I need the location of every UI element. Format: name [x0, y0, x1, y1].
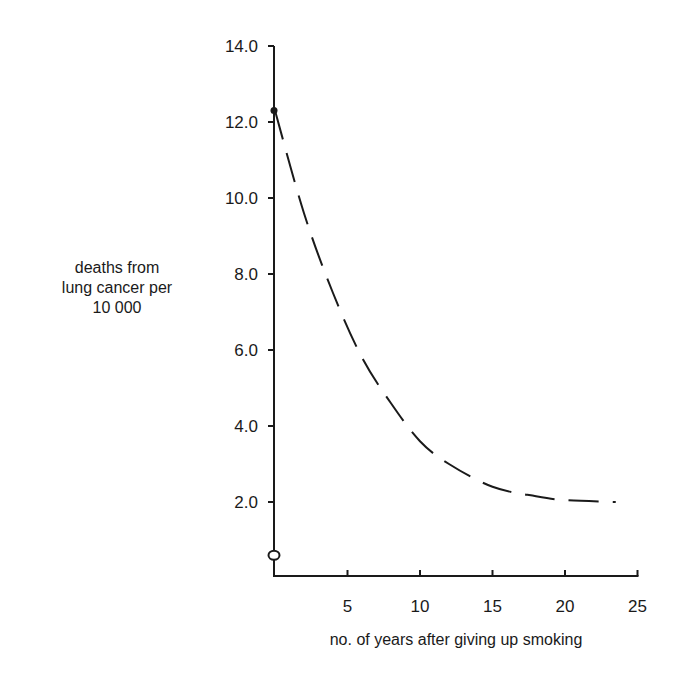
axes [273, 46, 639, 576]
x-tick-label: 25 [628, 597, 647, 616]
y-tick-label: 6.0 [234, 341, 258, 360]
y-tick-label: 10.0 [225, 189, 258, 208]
x-tick-label: 15 [483, 597, 502, 616]
line-chart: 2.04.06.08.010.012.014.0 510152025 no. o… [0, 0, 689, 696]
y-tick-label: 14.0 [225, 37, 258, 56]
y-axis-ticks: 2.04.06.08.010.012.014.0 [225, 37, 274, 512]
y-tick-label: 4.0 [234, 417, 258, 436]
x-tick-label: 10 [411, 597, 430, 616]
dashed-curve [275, 111, 616, 502]
x-tick-label: 20 [556, 597, 575, 616]
y-tick-label: 8.0 [234, 265, 258, 284]
y-tick-label: 2.0 [234, 493, 258, 512]
x-tick-label: 5 [343, 597, 352, 616]
non-smokers-point-marker [269, 551, 280, 560]
y-tick-label: 12.0 [225, 113, 258, 132]
smokers-point-marker [271, 107, 278, 114]
x-axis-title: no. of years after giving up smoking [330, 631, 583, 648]
